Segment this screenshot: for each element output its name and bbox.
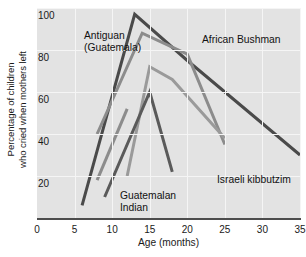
gridline-vertical — [300, 8, 301, 218]
series-line-israeli-kibbutzim — [127, 67, 225, 176]
x-tick-label: 0 — [34, 224, 40, 235]
y-axis-label-line2: who cried when mothers left — [16, 51, 28, 168]
guatemalan-indian-label: GuatemalanIndian — [120, 190, 176, 214]
gridline-horizontal — [37, 8, 300, 9]
gridline-vertical — [75, 8, 76, 218]
y-axis-label: Percentage of children who cried when mo… — [0, 0, 33, 218]
antiguan-label-line1: Antiguan — [84, 30, 141, 42]
y-axis-label-line1: Percentage of children — [5, 51, 17, 168]
gridline-horizontal — [37, 50, 300, 51]
gridline-vertical — [187, 8, 188, 218]
x-tick-label: 5 — [72, 224, 78, 235]
antiguan-label-line2: (Guatemala) — [84, 42, 141, 54]
x-tick-label: 25 — [219, 224, 230, 235]
x-tick-label: 20 — [182, 224, 193, 235]
x-tick-label: 30 — [257, 224, 268, 235]
israeli-kibbutzim-label-line1: Israeli kibbutzim — [217, 174, 291, 186]
x-axis-label: Age (months) — [37, 237, 300, 248]
guatemalan-indian-label-line1: Guatemalan — [120, 190, 176, 202]
african-bushman-label-line1: African Bushman — [202, 34, 280, 46]
gridline-horizontal — [37, 134, 300, 135]
x-tick-label: 10 — [107, 224, 118, 235]
african-bushman-label: African Bushman — [202, 34, 280, 46]
gridline-horizontal — [37, 92, 300, 93]
y-tick-label: 80 — [38, 52, 49, 63]
y-tick-label: 40 — [38, 136, 49, 147]
x-tick-label: 15 — [144, 224, 155, 235]
y-tick-label: 60 — [38, 94, 49, 105]
israeli-kibbutzim-label: Israeli kibbutzim — [217, 174, 291, 186]
y-tick-label: 100 — [38, 10, 55, 21]
antiguan-label: Antiguan(Guatemala) — [84, 30, 141, 54]
x-tick-label: 35 — [294, 224, 305, 235]
y-tick-label: 20 — [38, 178, 49, 189]
series-line-guatemalan-indian — [105, 92, 173, 197]
chart-figure: Percentage of children who cried when mo… — [0, 0, 306, 257]
x-axis-line — [37, 218, 301, 220]
guatemalan-indian-label-line2: Indian — [120, 202, 176, 214]
gridline-vertical — [150, 8, 151, 218]
